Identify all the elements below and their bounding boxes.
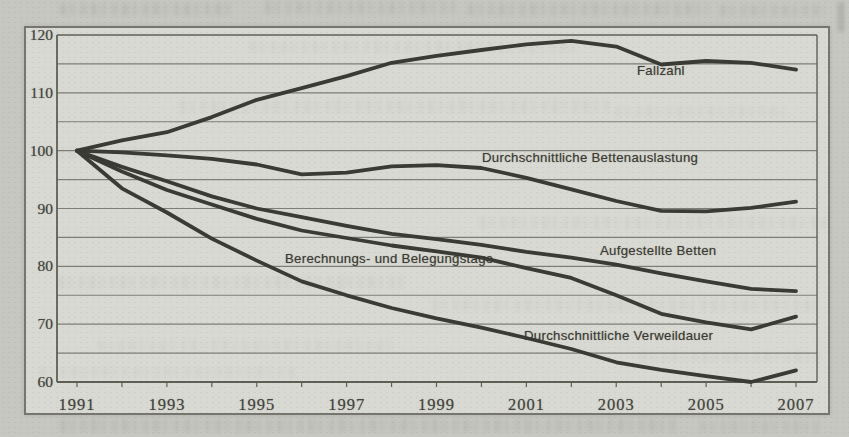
y-axis-label-120: 120 (15, 26, 53, 44)
series-line-1 (77, 41, 796, 151)
y-axis-label-80: 80 (15, 257, 53, 275)
series-label-2: Durchschnittliche Bettenauslastung (482, 150, 698, 165)
series-label-3: Aufgestellte Betten (600, 243, 716, 258)
series-label-5: Durchschnittliche Verweildauer (524, 328, 713, 343)
y-axis-label-90: 90 (15, 200, 53, 218)
y-axis-label-70: 70 (15, 315, 53, 333)
x-axis-label-1991: 1991 (47, 395, 107, 415)
x-axis-label-2005: 2005 (676, 395, 736, 415)
series-label-1: Fallzahl (637, 63, 685, 78)
x-axis-label-1997: 1997 (317, 395, 377, 415)
line-chart (0, 0, 849, 437)
x-axis-label-1999: 1999 (407, 395, 467, 415)
y-axis-label-110: 110 (15, 84, 53, 102)
x-axis-label-2007: 2007 (766, 395, 826, 415)
series-label-4: Berechnungs- und Belegungstage (285, 251, 493, 266)
x-axis-label-2003: 2003 (586, 395, 646, 415)
y-axis-label-60: 60 (15, 373, 53, 391)
x-axis-label-1995: 1995 (227, 395, 287, 415)
x-axis-label-2001: 2001 (496, 395, 556, 415)
x-axis-label-1993: 1993 (137, 395, 197, 415)
y-axis-label-100: 100 (15, 142, 53, 160)
gridlines (57, 64, 817, 353)
